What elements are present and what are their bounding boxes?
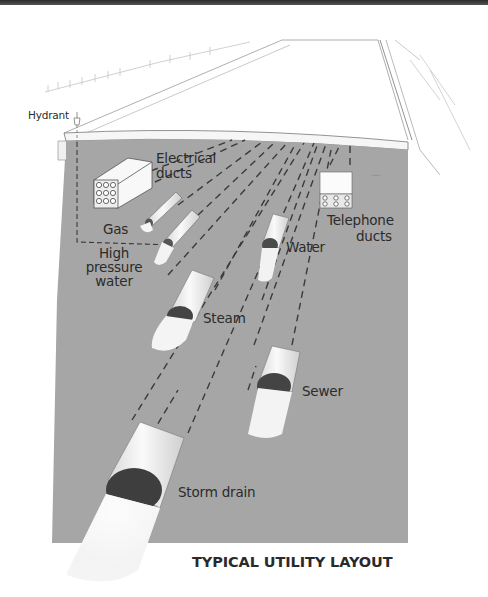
label-high-pressure-water-line3: water	[84, 274, 144, 289]
label-telephone-ducts-line1: Telephone	[327, 213, 394, 228]
diagram-caption: TYPICAL UTILITY LAYOUT	[192, 554, 393, 570]
label-storm-drain: Storm drain	[178, 485, 255, 500]
label-gas: Gas	[103, 222, 128, 237]
label-sewer: Sewer	[302, 384, 343, 399]
label-steam: Steam	[203, 311, 246, 326]
label-telephone-ducts-line2: ducts	[356, 229, 392, 244]
label-electrical-ducts-line1: Electrical	[156, 151, 216, 166]
label-hydrant: Hydrant	[28, 108, 69, 123]
telephone-duct-bank	[320, 172, 352, 208]
utility-layout-illustration	[0, 0, 488, 597]
label-electrical-ducts-line2: ducts	[156, 166, 192, 181]
label-water: Water	[286, 240, 325, 255]
